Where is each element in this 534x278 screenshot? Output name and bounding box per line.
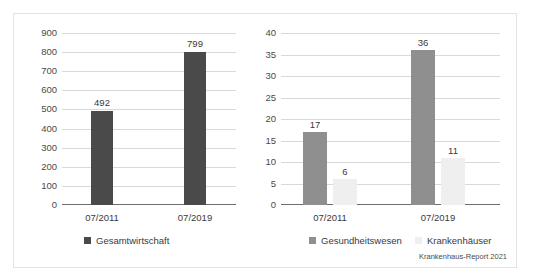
gridline-600 [62, 90, 236, 91]
ytick-label: 30 [265, 71, 276, 81]
gridline-25 [281, 98, 500, 99]
bar-value-label: 799 [187, 39, 203, 49]
gridline-900 [62, 33, 236, 34]
ytick-label: 200 [41, 162, 57, 172]
bar-gesamtwirtschaft-2019 [184, 52, 206, 205]
ytick-label: 10 [265, 157, 276, 167]
gridline-200 [62, 167, 236, 168]
ytick-label: 0 [52, 200, 57, 210]
gridline-300 [62, 148, 236, 149]
figure: 900 800 700 600 500 400 300 200 100 0 49… [0, 0, 534, 278]
plot-area-right: 40 35 30 25 20 15 10 5 0 17 6 36 11 [281, 33, 500, 205]
legend-swatch-icon [415, 237, 422, 244]
xtick-label: 07/2019 [421, 213, 455, 223]
bar-value-label: 17 [310, 120, 321, 130]
legend-swatch-icon [309, 237, 316, 244]
legend-item-krankenhaeuser: Krankenhäuser [415, 236, 491, 246]
figure-frame: 900 800 700 600 500 400 300 200 100 0 49… [13, 13, 517, 268]
bar-krankenhaeuser-2011 [333, 179, 357, 205]
ytick-label: 40 [265, 28, 276, 38]
legend-item-gesundheitswesen: Gesundheitswesen [309, 236, 402, 246]
ytick-label: 5 [271, 179, 276, 189]
legend-label: Krankenhäuser [427, 236, 491, 246]
chart-panel-gesundheitswesen: 40 35 30 25 20 15 10 5 0 17 6 36 11 [252, 14, 518, 269]
ytick-label: 20 [265, 114, 276, 124]
ytick-label: 0 [271, 200, 276, 210]
gridline-400 [62, 129, 236, 130]
xtick-label: 07/2011 [85, 213, 119, 223]
chart-panel-gesamtwirtschaft: 900 800 700 600 500 400 300 200 100 0 49… [14, 14, 252, 269]
gridline-700 [62, 71, 236, 72]
gridline-30 [281, 76, 500, 77]
x-axis-line-left [62, 204, 236, 205]
bar-value-label: 492 [94, 98, 110, 108]
bar-gesamtwirtschaft-2011 [91, 111, 113, 205]
ytick-label: 15 [265, 136, 276, 146]
legend-swatch-icon [84, 237, 91, 244]
ytick-label: 400 [41, 124, 57, 134]
bar-value-label: 36 [418, 38, 429, 48]
xtick-label: 07/2019 [178, 213, 212, 223]
bar-value-label: 11 [448, 146, 458, 156]
ytick-label: 900 [41, 28, 57, 38]
ytick-label: 800 [41, 47, 57, 57]
legend-label: Gesamtwirtschaft [96, 236, 169, 246]
ytick-label: 700 [41, 66, 57, 76]
ytick-label: 35 [265, 50, 276, 60]
bar-krankenhaeuser-2019 [441, 158, 465, 205]
legend-item-gesamtwirtschaft: Gesamtwirtschaft [84, 236, 169, 246]
ytick-label: 300 [41, 143, 57, 153]
gridline-800 [62, 52, 236, 53]
bar-value-label: 6 [342, 167, 347, 177]
gridline-40 [281, 33, 500, 34]
ytick-label: 600 [41, 85, 57, 95]
source-note: Krankenhaus-Report 2021 [419, 253, 507, 261]
bar-gesundheitswesen-2011 [303, 132, 327, 205]
plot-area-left: 900 800 700 600 500 400 300 200 100 0 49… [62, 33, 236, 205]
ytick-label: 100 [41, 181, 57, 191]
xtick-label: 07/2011 [313, 213, 347, 223]
legend-label: Gesundheitswesen [321, 236, 402, 246]
gridline-35 [281, 55, 500, 56]
ytick-label: 500 [41, 104, 57, 114]
bar-gesundheitswesen-2019 [411, 50, 435, 205]
gridline-500 [62, 109, 236, 110]
gridline-100 [62, 186, 236, 187]
ytick-label: 25 [265, 93, 276, 103]
